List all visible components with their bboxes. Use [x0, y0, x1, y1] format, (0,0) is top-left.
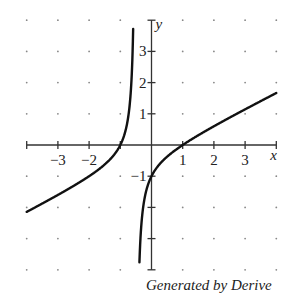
grid-dot [182, 175, 184, 177]
grid-dot [182, 51, 184, 53]
grid-dot [275, 269, 277, 271]
grid-dot [88, 19, 90, 21]
grid-dot [182, 238, 184, 240]
grid-dot [244, 51, 246, 53]
y-axis-label: y [154, 16, 163, 32]
grid-dot [119, 238, 121, 240]
grid-dot [213, 269, 215, 271]
grid-dot [88, 113, 90, 115]
curve-left-branch [27, 29, 133, 212]
grid-dot [244, 113, 246, 115]
grid-dot [26, 19, 28, 21]
grid-dot [213, 175, 215, 177]
grid-dot [26, 51, 28, 53]
grid-dot [57, 207, 59, 209]
grid-dot [275, 51, 277, 53]
grid-dot [244, 82, 246, 84]
grid-dot [26, 175, 28, 177]
y-tick-label: 2 [139, 75, 147, 91]
grid-dot [57, 19, 59, 21]
grid-dot [57, 113, 59, 115]
x-tick-label: 1 [179, 152, 187, 168]
grid-dot [119, 207, 121, 209]
grid-dot [119, 113, 121, 115]
grid-dot [275, 207, 277, 209]
x-axis-label: x [269, 147, 277, 163]
grid-dot [88, 82, 90, 84]
x-tick-label: 2 [210, 152, 218, 168]
grid-dot [244, 269, 246, 271]
grid-dot [182, 82, 184, 84]
grid-dot [26, 113, 28, 115]
grid-dot [213, 82, 215, 84]
chart-container: −3−2123321−1xy Generated by Derive [0, 0, 298, 298]
x-tick-label: 3 [241, 152, 249, 168]
grid-dot [57, 269, 59, 271]
curve-right-branch [139, 93, 276, 262]
grid-dot [213, 19, 215, 21]
x-tick-label: −3 [50, 152, 66, 168]
grid-dot [182, 19, 184, 21]
grid-dot [275, 175, 277, 177]
plot-area: −3−2123321−1xy [0, 0, 298, 298]
grid-dot [88, 238, 90, 240]
grid-dot [119, 269, 121, 271]
grid-dot [244, 175, 246, 177]
grid-dot [275, 82, 277, 84]
grid-dot [182, 269, 184, 271]
grid-dot [88, 269, 90, 271]
grid-dot [26, 269, 28, 271]
grid-dot [57, 175, 59, 177]
grid-dot [119, 82, 121, 84]
grid-dot [213, 51, 215, 53]
grid-dot [57, 51, 59, 53]
x-tick-label: −2 [81, 152, 97, 168]
grid-dot [119, 175, 121, 177]
grid-dot [26, 82, 28, 84]
y-tick-label: 1 [139, 106, 147, 122]
grid-dot [275, 238, 277, 240]
grid-dot [275, 19, 277, 21]
grid-dot [182, 113, 184, 115]
grid-dot [57, 82, 59, 84]
grid-dot [26, 238, 28, 240]
y-tick-label: 3 [139, 43, 147, 59]
grid-dot [244, 19, 246, 21]
grid-dot [182, 207, 184, 209]
grid-dot [26, 207, 28, 209]
grid-dot [57, 238, 59, 240]
grid-dot [244, 207, 246, 209]
grid-dot [213, 207, 215, 209]
grid-dot [119, 19, 121, 21]
grid-dot [244, 238, 246, 240]
y-tick-label: −1 [131, 168, 147, 184]
grid-dot [119, 51, 121, 53]
credit-text: Generated by Derive [146, 277, 272, 294]
grid-dot [213, 113, 215, 115]
grid-dot [213, 238, 215, 240]
grid-dot [88, 51, 90, 53]
grid-dot [88, 207, 90, 209]
grid-dot [275, 113, 277, 115]
